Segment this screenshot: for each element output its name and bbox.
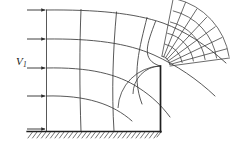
inlet-velocity-symbol: V — [16, 55, 23, 67]
inlet-velocity-subscript: 1 — [23, 60, 27, 69]
inlet-velocity-label: V1 — [16, 55, 27, 69]
flow-net-drawing — [0, 0, 246, 152]
flow-net-figure: V1 — [0, 0, 246, 152]
